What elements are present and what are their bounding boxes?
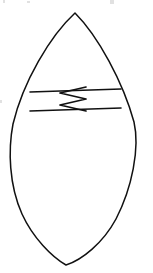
edge-artifact-mark — [3, 0, 5, 3]
leaf-diagram-svg — [0, 0, 153, 273]
edge-artifact-mark — [0, 100, 2, 103]
diagram-canvas: Pointed oval leaf outline Upper horizont… — [0, 0, 153, 273]
page-background — [0, 0, 153, 273]
edge-artifact-mark — [110, 0, 114, 4]
edge-artifact-mark — [27, 1, 30, 3]
